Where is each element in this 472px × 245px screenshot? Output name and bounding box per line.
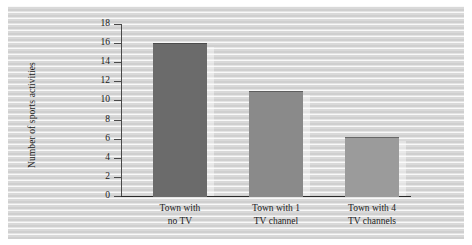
y-axis-tick-label: 16	[78, 37, 110, 47]
y-axis-tick	[114, 24, 121, 25]
bar[interactable]	[345, 137, 399, 197]
y-axis-tick-label: 8	[78, 114, 110, 124]
x-axis-category-line: TV channels	[324, 215, 420, 228]
y-axis-title: Number of sports activities	[27, 45, 37, 185]
y-axis-line	[121, 24, 122, 197]
x-axis-category-label: Town with 4TV channels	[324, 202, 420, 227]
bar[interactable]	[153, 43, 207, 197]
x-axis-category-line: Town with 4	[324, 202, 420, 215]
bar[interactable]	[249, 91, 303, 197]
y-axis-tick	[114, 139, 121, 140]
y-axis-tick	[114, 100, 121, 101]
plot-area: Number of sports activities 024681012141…	[8, 6, 464, 239]
bar-shadow	[303, 95, 310, 196]
y-axis-tick	[114, 120, 121, 121]
x-axis-category-line: TV channel	[228, 215, 324, 228]
y-axis-tick	[114, 43, 121, 44]
x-axis-category-label: Town with 1TV channel	[228, 202, 324, 227]
y-axis-tick	[114, 158, 121, 159]
x-axis-category-line: Town with	[132, 202, 228, 215]
x-axis-category-line: no TV	[132, 215, 228, 228]
y-axis-tick	[114, 196, 121, 197]
y-axis-tick-label: 10	[78, 94, 110, 104]
bar-shadow	[207, 47, 214, 196]
y-axis-tick	[114, 177, 121, 178]
bar-shadow	[399, 141, 406, 196]
y-axis-tick-label: 0	[78, 190, 110, 200]
x-axis-category-line: Town with 1	[228, 202, 324, 215]
chart-screenshot: Number of sports activities 024681012141…	[0, 0, 472, 245]
y-axis-tick-label: 4	[78, 152, 110, 162]
y-axis-tick-label: 18	[78, 18, 110, 28]
x-axis-category-label: Town withno TV	[132, 202, 228, 227]
y-axis-tick	[114, 81, 121, 82]
y-axis-tick	[114, 62, 121, 63]
y-axis-tick-label: 12	[78, 75, 110, 85]
y-axis-tick-label: 6	[78, 133, 110, 143]
y-axis-tick-label: 2	[78, 171, 110, 181]
chart-panel: Number of sports activities 024681012141…	[8, 6, 464, 239]
y-axis-tick-label: 14	[78, 56, 110, 66]
